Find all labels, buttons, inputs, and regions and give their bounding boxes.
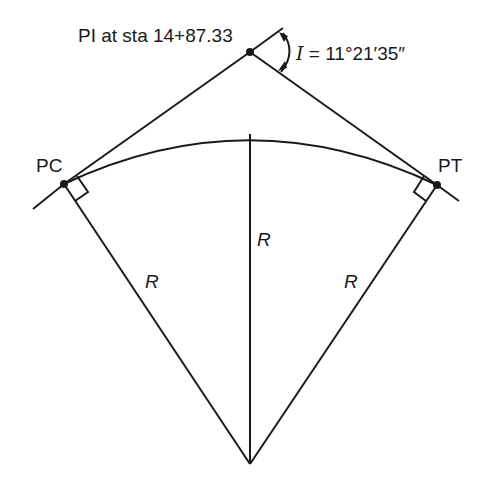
pt-point: [433, 181, 441, 189]
radius-line-left: [64, 184, 250, 464]
right-angle-marker-pc: [75, 176, 88, 201]
pi-label: PI at sta 14+87.33: [78, 25, 233, 46]
radius-label-left: R: [145, 271, 159, 292]
tangent-extension-line: [250, 28, 283, 52]
curve-diagram: PI at sta 14+87.33 I = 11°21′35″ PC PT R…: [0, 0, 494, 483]
pc-label: PC: [36, 155, 62, 176]
pc-point: [60, 180, 68, 188]
angle-label: I = 11°21′35″: [295, 42, 405, 64]
pt-label: PT: [438, 155, 463, 176]
back-tangent-line: [64, 52, 250, 184]
radius-label-right: R: [344, 271, 358, 292]
radius-line-right: [250, 185, 437, 464]
pi-point: [246, 48, 254, 56]
radius-label-center: R: [257, 229, 271, 250]
angle-value: = 11°21′35″: [304, 43, 406, 64]
angle-arrowhead-bottom-icon: [278, 61, 287, 71]
forward-tangent-line: [250, 52, 437, 185]
circular-curve-arc: [33, 140, 459, 209]
